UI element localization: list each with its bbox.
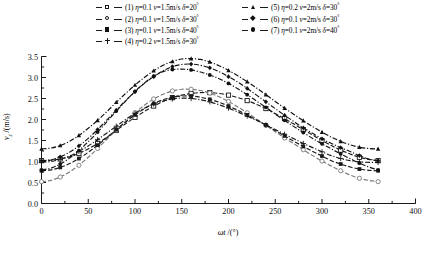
x-tick-label: 200: [222, 207, 234, 216]
y-tick-label: 1.5: [16, 136, 38, 145]
series-line-4: [39, 96, 381, 165]
y-tick-label: 2.5: [16, 94, 38, 103]
y-tick-label: 2.0: [16, 115, 38, 124]
y-tick-label: 0.5: [16, 178, 38, 187]
y-tick-label: 3.0: [16, 73, 38, 82]
x-tick-label: 250: [269, 207, 281, 216]
x-tick-label: 350: [363, 207, 375, 216]
y-tick-label: 0.0: [16, 199, 38, 208]
x-axis-title: ωt /(°): [218, 228, 239, 237]
y-tick-label: 3.5: [16, 52, 38, 61]
figure-chart: (1) η=0.1 v=1.5m/s δ=20° (5) η=0.2 v=2m/…: [0, 0, 429, 258]
series-line-7: [40, 68, 380, 172]
series-layer: [39, 56, 381, 184]
x-tick-label: 400: [409, 207, 421, 216]
x-tick-label: 50: [84, 207, 92, 216]
x-tick-label: 0: [39, 207, 43, 216]
y-axis-title: vz /(m/s): [2, 113, 11, 140]
plot-area: 0.00.51.01.52.02.53.03.5 050100150200250…: [0, 0, 429, 258]
x-tick-label: 150: [176, 207, 188, 216]
x-tick-label: 300: [316, 207, 328, 216]
series-line-3: [40, 94, 380, 173]
y-tick-label: 1.0: [16, 157, 38, 166]
plot-canvas: [0, 0, 429, 258]
x-tick-label: 100: [129, 207, 141, 216]
